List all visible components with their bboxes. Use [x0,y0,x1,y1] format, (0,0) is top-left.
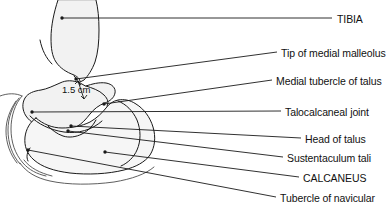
tibia-outline [51,0,99,82]
label-tibia: TIBIA [337,14,363,25]
leader-dot-head-of-talus [69,124,72,127]
measurement-label: 1.5 cm [62,85,91,95]
label-medial-tubercle-of-talus: Medial tubercle of talus [276,76,382,87]
leader-dot-talocalcaneal-joint [30,110,33,113]
achilles-skin-line [0,94,22,96]
leader-dot-sustentaculum-tali [66,129,69,132]
label-sustentaculum-tali: Sustentaculum tali [287,153,371,164]
leader-dot-tubercle-of-navicular [26,148,29,151]
leader-dot-calcaneus [103,150,106,153]
leader-line-tubercle-of-navicular [28,150,276,197]
leader-dot-tibia [60,16,63,19]
label-tip-of-medial-malleolus: Tip of medial malleolus [281,48,386,59]
label-tubercle-of-navicular: Tubercle of navicular [280,193,375,204]
leader-dot-tip-of-medial-malleolus [74,77,77,80]
label-talocalcaneal-joint: Talocalcaneal joint [285,107,369,118]
leader-dot-medial-tubercle-of-talus [102,102,105,105]
leader-line-tip-of-medial-malleolus [76,52,277,79]
label-calcaneus: CALCANEUS [303,173,366,184]
anatomical-figure: 1.5 cm TIBIA Tip of medial malleolus Med… [0,0,392,214]
leader-line-medial-tubercle-of-talus [104,80,272,104]
posterior-heel-contour-2 [8,98,20,164]
fibula-shadow-line [40,40,52,64]
label-head-of-talus: Head of talus [305,134,366,145]
